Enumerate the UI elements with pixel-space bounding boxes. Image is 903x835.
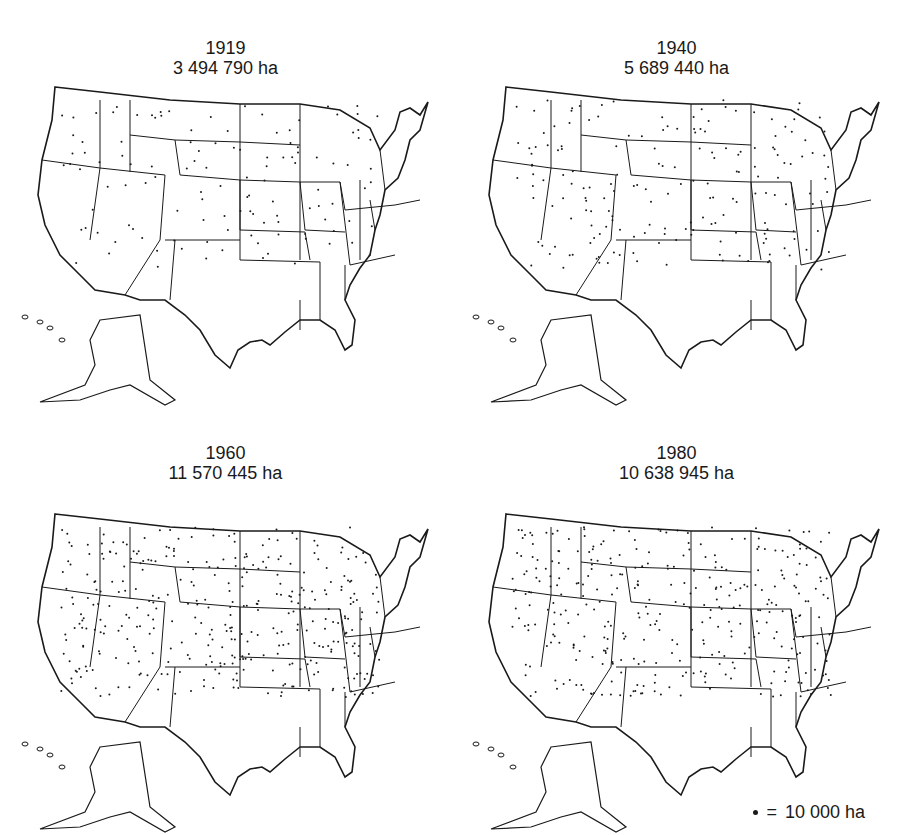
us-dot-map: [451, 417, 902, 834]
legend-equals: =: [766, 802, 777, 823]
us-dot-map: [0, 417, 451, 834]
legend-label: 10 000 ha: [785, 802, 865, 823]
map-panel-1919: 1919 3 494 790 ha: [0, 0, 451, 417]
dot-symbol-icon: [753, 810, 758, 815]
map-panel-1940: 1940 5 689 440 ha: [451, 0, 902, 417]
map-panel-1960: 1960 11 570 445 ha: [0, 417, 451, 834]
us-dot-map: [451, 0, 902, 417]
us-dot-map: [0, 0, 451, 417]
legend: = 10 000 ha: [753, 802, 865, 823]
map-panel-1980: 1980 10 638 945 ha: [451, 417, 902, 834]
